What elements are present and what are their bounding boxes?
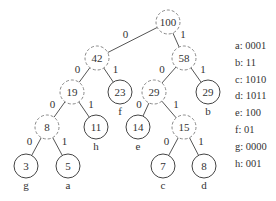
node-symbol: a [66, 179, 71, 191]
legend-item-e: e: 100 [235, 105, 267, 122]
tree-edge [173, 33, 179, 47]
edge-label-1: 1 [113, 63, 119, 75]
legend-item-g: g: 0000 [235, 139, 267, 156]
node-symbol: f [118, 105, 122, 117]
node-weight: 19 [67, 86, 79, 98]
edge-label-1: 1 [198, 135, 204, 147]
tree-edge [189, 138, 198, 156]
node-symbol: g [23, 179, 29, 191]
node-symbol: h [93, 140, 99, 152]
edge-label-0: 0 [164, 135, 170, 147]
node-weight: 23 [115, 86, 127, 98]
node-weight: 8 [201, 160, 207, 172]
node-weight: 11 [91, 121, 102, 133]
leaf-node: 8d [192, 154, 216, 191]
edge-label-1: 1 [173, 98, 179, 110]
edge-label-0: 0 [159, 63, 165, 75]
internal-node: 42 [85, 46, 109, 70]
internal-node: 58 [172, 46, 196, 70]
tree-edge [143, 103, 149, 116]
node-weight: 42 [92, 52, 103, 64]
edge-label-0: 0 [123, 28, 129, 40]
legend-item-b: b: 11 [235, 55, 267, 72]
edge-label-1: 1 [88, 98, 94, 110]
legend-item-a: a: 0001 [235, 38, 267, 55]
legend-item-f: f: 01 [235, 122, 267, 139]
node-weight: 7 [160, 160, 166, 172]
node-symbol: e [136, 140, 141, 152]
edge-label-1: 1 [180, 28, 186, 40]
legend-item-d: d: 1011 [235, 88, 267, 105]
node-weight: 58 [179, 52, 191, 64]
leaf-node: 14e [126, 115, 150, 152]
tree-edge [32, 138, 42, 156]
tree-edge [79, 68, 90, 83]
edge-label-0: 0 [27, 135, 33, 147]
legend-item-h: h: 001 [235, 156, 267, 173]
leaf-node: 29b [196, 80, 220, 117]
leaf-node: 5a [56, 154, 80, 191]
edge-label-0: 0 [75, 63, 81, 75]
edge-label-1: 1 [200, 63, 206, 75]
node-weight: 5 [65, 160, 71, 172]
legend-item-c: c: 1010 [235, 72, 267, 89]
tree-edge [108, 27, 158, 52]
edge-label-1: 1 [62, 135, 68, 147]
edge-label-0: 0 [136, 98, 142, 110]
node-weight: 8 [44, 121, 50, 133]
leaf-node: 3g [14, 154, 38, 191]
node-weight: 15 [179, 121, 191, 133]
node-symbol: b [205, 105, 211, 117]
node-weight: 29 [203, 86, 215, 98]
leaf-node: 11h [84, 115, 108, 152]
node-symbol: c [161, 179, 166, 191]
leaf-node: 23f [108, 80, 132, 117]
internal-node: 100 [156, 10, 180, 34]
leaf-node: 7c [151, 154, 175, 191]
node-weight: 14 [133, 121, 145, 133]
code-legend: a: 0001 b: 11 c: 1010 d: 1011 e: 100 f: … [235, 38, 267, 172]
internal-node: 19 [60, 80, 84, 104]
edge-label-0: 0 [50, 98, 56, 110]
internal-node: 8 [35, 115, 59, 139]
node-symbol: d [201, 179, 207, 191]
internal-node: 29 [142, 80, 166, 104]
tree-edge [54, 102, 65, 117]
internal-node: 15 [172, 115, 196, 139]
node-weight: 100 [160, 16, 177, 28]
tree-edge [169, 138, 179, 156]
node-weight: 29 [149, 86, 161, 98]
node-weight: 3 [23, 160, 29, 172]
